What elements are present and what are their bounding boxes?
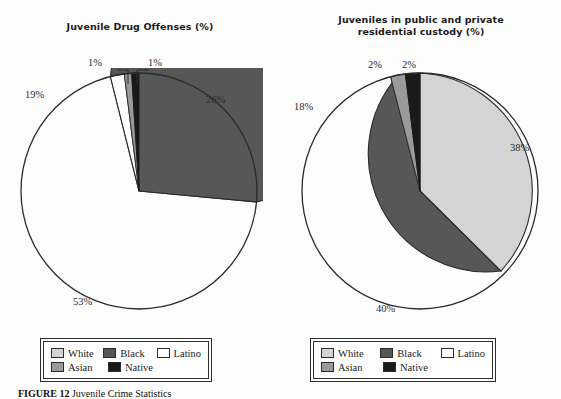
legend-item-asian-right[interactable]: Asian [321, 362, 383, 373]
pie-label-white-left: 26% [206, 94, 225, 105]
legend-item-native-left[interactable]: Native [108, 362, 166, 373]
legend-item-latino-right[interactable]: Latino [441, 348, 485, 359]
pie-label-native-right: 2% [402, 59, 416, 70]
legend-item-white-left[interactable]: White [51, 348, 103, 359]
legend-label-latino: Latino [174, 348, 201, 359]
legend-swatch-black-icon [103, 348, 116, 358]
pie-label-native-left: 1% [148, 57, 162, 68]
pie-svg-right [299, 68, 544, 318]
pie-label-white-right: 38% [510, 142, 529, 153]
legend-label-asian: Asian [338, 362, 363, 373]
pie-label-asian-right: 2% [368, 59, 382, 70]
legend-swatch-native-icon [108, 362, 121, 372]
pie-label-latino-left: 19% [25, 89, 44, 100]
pie-svg-left [18, 68, 263, 318]
chart-title-right: Juveniles in public and private resident… [281, 14, 561, 38]
figure-caption: FIGURE 12 Juvenile Crime Statistics [18, 388, 171, 399]
figure-caption-label: FIGURE 12 [18, 388, 69, 399]
legend-row-1: White Black Latino [321, 346, 485, 360]
legend-label-native: Native [125, 362, 153, 373]
chart-title-right-line1: Juveniles in public and private [281, 14, 561, 26]
legend-swatch-asian-icon [51, 362, 64, 372]
legend-item-black-right[interactable]: Black [380, 348, 440, 359]
legend-swatch-white-icon [51, 348, 64, 358]
legend-label-white: White [338, 348, 364, 359]
legend-item-white-right[interactable]: White [321, 348, 380, 359]
legend-item-latino-left[interactable]: Latino [157, 348, 201, 359]
legend-left: White Black Latino Asian [40, 338, 212, 382]
legend-swatch-white-icon [321, 348, 334, 358]
pie-chart-left [18, 68, 263, 318]
pie-chart-right [299, 68, 544, 318]
chart-title-left: Juvenile Drug Offenses (%) [0, 21, 280, 33]
legend-item-asian-left[interactable]: Asian [51, 362, 108, 373]
figure-caption-text: Juvenile Crime Statistics [72, 388, 171, 399]
pie-label-black-right: 40% [376, 303, 395, 314]
chart-panel-left: Juvenile Drug Offenses (%) 1% 1 [0, 0, 280, 396]
legend-row-2: Asian Native [321, 360, 485, 374]
legend-label-latino: Latino [458, 348, 485, 359]
legend-row-2: Asian Native [51, 360, 201, 374]
chart-panel-right: Juveniles in public and private resident… [281, 0, 561, 396]
legend-swatch-native-icon [383, 362, 396, 372]
pie-label-latino-right: 18% [294, 101, 313, 112]
legend-right: White Black Latino Asian [310, 338, 496, 382]
pie-label-asian-left: 1% [88, 57, 102, 68]
chart-title-right-line2: residential custody (%) [281, 26, 561, 38]
legend-swatch-latino-icon [441, 348, 454, 358]
pie-label-black-left: 53% [73, 296, 92, 307]
legend-row-1: White Black Latino [51, 346, 201, 360]
legend-item-native-right[interactable]: Native [383, 362, 446, 373]
legend-label-native: Native [400, 362, 428, 373]
legend-swatch-asian-icon [321, 362, 334, 372]
legend-swatch-latino-icon [157, 348, 170, 358]
legend-item-black-left[interactable]: Black [103, 348, 156, 359]
legend-label-asian: Asian [68, 362, 93, 373]
legend-label-black: Black [120, 348, 145, 359]
legend-label-black: Black [397, 348, 422, 359]
legend-swatch-black-icon [380, 348, 393, 358]
legend-label-white: White [68, 348, 94, 359]
